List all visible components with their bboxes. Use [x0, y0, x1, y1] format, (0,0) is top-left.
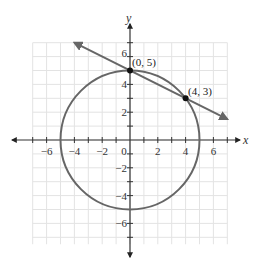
x-tick-labels: −6 −4 −2 0 2 4 6	[41, 145, 217, 157]
y-tick-labels: 6 4 2 −2 −4 −6	[115, 47, 127, 229]
point-label-4-3: (4, 3)	[188, 85, 212, 98]
x-tick-label: −2	[96, 145, 108, 157]
y-tick-label: 2	[122, 106, 128, 118]
point-label-0-5: (0, 5)	[132, 56, 156, 69]
y-tick-label: 4	[122, 78, 128, 90]
y-axis-label: y	[125, 11, 132, 25]
x-tick-label: 2	[155, 145, 161, 157]
tangent-line	[74, 43, 227, 120]
x-tick-label: 4	[183, 145, 189, 157]
x-axis-label: x	[242, 133, 249, 147]
coordinate-plane: −6 −4 −2 0 2 4 6 6 4 2 −2 −4 −6 y x (0, …	[0, 0, 264, 268]
y-tick-label: −2	[115, 162, 127, 174]
y-tick-label: −6	[115, 217, 127, 229]
x-tick-label: −6	[41, 145, 53, 157]
x-tick-label: −4	[69, 145, 81, 157]
y-tick-label: −4	[115, 190, 127, 202]
point-0-5	[127, 68, 133, 74]
x-tick-label: 0	[121, 145, 127, 157]
x-tick-label: 6	[211, 145, 217, 157]
y-tick-label: 6	[122, 47, 128, 59]
